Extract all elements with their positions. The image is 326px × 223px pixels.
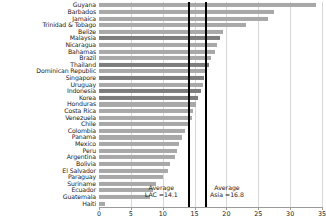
bar bbox=[99, 129, 185, 133]
bar-row: Mexico bbox=[99, 141, 322, 148]
bar-row: Costa Rica bbox=[99, 108, 322, 115]
bar bbox=[99, 195, 150, 199]
annotation-line-2: Asia =16.8 bbox=[210, 191, 244, 198]
bar bbox=[99, 175, 163, 179]
x-tick-label: 30 bbox=[286, 211, 294, 218]
x-tick-label: 35 bbox=[318, 211, 326, 218]
bar bbox=[99, 63, 209, 67]
average-lac-line bbox=[188, 2, 190, 207]
bar bbox=[99, 122, 188, 126]
bar bbox=[99, 116, 192, 120]
bar bbox=[99, 23, 246, 27]
bar-row: Barbados bbox=[99, 9, 322, 16]
bar-rows: GuyanaBarbadosJamaicaTrinidad & TobagoBe… bbox=[99, 2, 322, 207]
bar-row: Paraguay bbox=[99, 174, 322, 181]
bar-row: El Salvador bbox=[99, 167, 322, 174]
bar bbox=[99, 155, 175, 159]
x-tick-label: 5 bbox=[129, 211, 133, 218]
bar-row: Trinidad & Tobago bbox=[99, 22, 322, 29]
bar-row: Korea bbox=[99, 95, 322, 102]
x-axis: 05101520253035 bbox=[99, 207, 322, 223]
bar bbox=[99, 43, 217, 47]
bar-row: Bolivia bbox=[99, 161, 322, 168]
bar-row: Malaysia bbox=[99, 35, 322, 42]
bar-row: Brazil bbox=[99, 55, 322, 62]
bar-row: Argentina bbox=[99, 154, 322, 161]
x-tick-label: 0 bbox=[97, 211, 101, 218]
bar-row: Honduras bbox=[99, 101, 322, 108]
average-asia-annotation: AverageAsia =16.8 bbox=[210, 184, 244, 198]
bar bbox=[99, 3, 316, 7]
x-axis-line bbox=[99, 207, 322, 208]
average-lac-annotation: AverageLAC =14.1 bbox=[145, 184, 178, 198]
bar bbox=[99, 162, 170, 166]
bar-row: Nicaragua bbox=[99, 42, 322, 49]
bar bbox=[99, 135, 182, 139]
bar bbox=[99, 36, 220, 40]
bar-row: Colombia bbox=[99, 128, 322, 135]
bar-row: Belize bbox=[99, 28, 322, 35]
x-tick-label: 10 bbox=[159, 211, 167, 218]
bar bbox=[99, 102, 196, 106]
bar bbox=[99, 149, 177, 153]
bar-row: Dominican Republic bbox=[99, 68, 322, 75]
bar bbox=[99, 109, 193, 113]
bar bbox=[99, 50, 215, 54]
annotation-line-2: LAC =14.1 bbox=[145, 191, 178, 198]
x-tick-label: 20 bbox=[222, 211, 230, 218]
bar bbox=[99, 168, 168, 172]
x-tick-label: 25 bbox=[254, 211, 262, 218]
bar-row: Thailand bbox=[99, 61, 322, 68]
bar-row: Panama bbox=[99, 134, 322, 141]
bar-row: Singapore bbox=[99, 75, 322, 82]
bar-row: Peru bbox=[99, 147, 322, 154]
bar bbox=[99, 16, 268, 20]
average-asia-line bbox=[205, 2, 207, 207]
bar-row: Haiti bbox=[99, 200, 322, 207]
x-tick-label: 15 bbox=[190, 211, 198, 218]
bar-row: Guyana bbox=[99, 2, 322, 9]
category-label: Haiti bbox=[82, 200, 96, 206]
bar bbox=[99, 142, 179, 146]
bar bbox=[99, 202, 105, 206]
bar bbox=[99, 89, 201, 93]
plot-area: GuyanaBarbadosJamaicaTrinidad & TobagoBe… bbox=[99, 2, 322, 207]
annotation-line-1: Average bbox=[210, 184, 244, 191]
bar bbox=[99, 56, 211, 60]
bar bbox=[99, 69, 207, 73]
bar-row: Uruguay bbox=[99, 81, 322, 88]
bar-row: Chile bbox=[99, 121, 322, 128]
gridline-35 bbox=[322, 2, 323, 207]
bar bbox=[99, 96, 198, 100]
bar bbox=[99, 10, 274, 14]
bar-chart: GuyanaBarbadosJamaicaTrinidad & TobagoBe… bbox=[0, 0, 326, 223]
bar-row: Indonesia bbox=[99, 88, 322, 95]
annotation-line-1: Average bbox=[145, 184, 178, 191]
bar-row: Jamaica bbox=[99, 15, 322, 22]
bar-row: Venezuela bbox=[99, 114, 322, 121]
bar-row: Bahamas bbox=[99, 48, 322, 55]
